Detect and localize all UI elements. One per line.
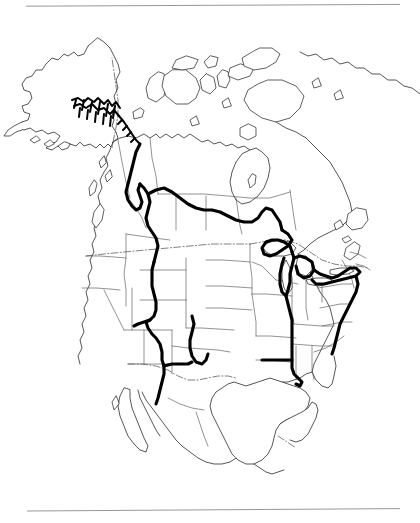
border-usa-mexico xyxy=(128,364,236,380)
range-sierra-madre-occidental xyxy=(156,366,164,404)
figure-page xyxy=(0,0,420,523)
alaska-peninsula-outline xyxy=(4,122,22,136)
bathurst-island xyxy=(204,56,218,68)
boundary-nd-sd xyxy=(206,260,250,262)
boundary-ok-tx xyxy=(172,346,230,352)
range-southern-plains-link xyxy=(164,362,192,366)
boundary-sd-ne xyxy=(206,286,252,288)
boundary-in-oh xyxy=(306,278,308,320)
victoria-island xyxy=(162,70,200,104)
boundary-mo-ar xyxy=(256,336,296,338)
southampton-island xyxy=(240,124,256,140)
haida-gwaii-island xyxy=(89,180,97,196)
bottom-horizontal-rule xyxy=(0,502,420,516)
prince-edward-island xyxy=(342,236,351,243)
range-bc-coast-boundary xyxy=(126,144,142,210)
boundary-ca-nv xyxy=(104,290,124,330)
range-mississippi-corridor xyxy=(286,296,302,386)
border-usa-canada-49th xyxy=(86,244,250,256)
baffin-island xyxy=(244,80,304,122)
arctic-small-island-c xyxy=(190,116,199,126)
boundary-mexico-north-a xyxy=(168,398,204,410)
range-central-rockies xyxy=(146,262,164,366)
arctic-small-island-b xyxy=(222,98,231,108)
boundary-mn-wi xyxy=(252,262,276,280)
boundary-nwt-nunavut xyxy=(150,138,158,194)
range-new-mexico-spur xyxy=(190,316,208,364)
boundary-id-west xyxy=(124,234,126,306)
hudson-bay-outline xyxy=(230,148,270,204)
prince-of-wales-island xyxy=(200,74,216,94)
north-america-range-map xyxy=(0,12,420,498)
coastline-layer xyxy=(4,38,420,474)
bottom-rule-line xyxy=(27,509,400,511)
map-canvas xyxy=(0,12,420,498)
somerset-island xyxy=(217,70,230,88)
boundary-mt-id xyxy=(126,234,170,240)
boundary-plains-east-b xyxy=(252,294,256,336)
baja-offshore-island xyxy=(112,396,119,410)
great-lakes-layer xyxy=(262,240,354,294)
boundary-ne-ks xyxy=(206,308,252,310)
greenland-coastal-island-b xyxy=(334,90,343,100)
panhandle-island-a xyxy=(99,156,106,168)
central-america-edge xyxy=(254,464,284,474)
alaska-mainland-outline xyxy=(18,38,120,150)
greenland-coastal-island-a xyxy=(312,78,321,88)
greenland-west-coast xyxy=(300,52,420,94)
nova-scotia-island xyxy=(344,242,360,260)
boundary-plains-east-a xyxy=(250,244,252,294)
ellesmere-island xyxy=(242,48,280,70)
top-rule-line xyxy=(26,4,400,6)
melville-island xyxy=(172,56,198,70)
arctic-small-island-a xyxy=(133,108,144,119)
baja-california-peninsula xyxy=(118,388,148,452)
aleutian-island-a xyxy=(30,136,40,143)
vancouver-island xyxy=(92,204,104,228)
